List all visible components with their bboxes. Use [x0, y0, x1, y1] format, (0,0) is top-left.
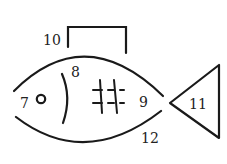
label-7: 7	[20, 95, 29, 111]
gill-line	[62, 74, 67, 123]
body-lower-arc	[16, 111, 161, 142]
label-12: 12	[141, 130, 159, 146]
fish-diagram: 7 8 9 10 11 12	[0, 0, 227, 164]
label-11: 11	[189, 96, 207, 112]
scale-mark	[93, 80, 124, 113]
label-9: 9	[139, 94, 148, 110]
label-10: 10	[43, 32, 61, 48]
body-upper-arc	[14, 57, 163, 96]
dorsal-fin-shape	[68, 27, 126, 53]
label-8: 8	[71, 64, 80, 80]
eye-icon	[37, 95, 45, 103]
